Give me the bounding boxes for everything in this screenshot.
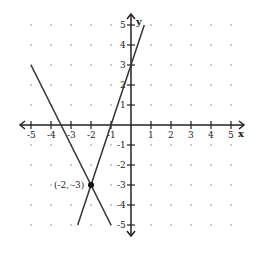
grid-dot: [90, 64, 92, 66]
grid-dot: [50, 44, 52, 46]
grid-dot: [70, 164, 72, 166]
svg-text:4: 4: [120, 40, 126, 50]
grid-dot: [210, 44, 212, 46]
intersection-label: (-2, -3): [54, 180, 84, 190]
grid-dot: [70, 224, 72, 226]
grid-dot: [110, 84, 112, 86]
svg-text:4: 4: [208, 130, 214, 140]
grid-dot: [190, 64, 192, 66]
grid-dot: [70, 84, 72, 86]
grid-dot: [70, 24, 72, 26]
grid-dot: [210, 184, 212, 186]
grid-dot: [90, 84, 92, 86]
grid-dot: [150, 24, 152, 26]
x-tick-labels: -5 -4 -3 -2 -1 1 2 3 4 5 x: [27, 128, 245, 140]
grid-dot: [210, 64, 212, 66]
grid-dot: [210, 84, 212, 86]
grid-dot: [90, 24, 92, 26]
grid-dot: [70, 64, 72, 66]
grid-dot: [210, 224, 212, 226]
grid-dot: [170, 204, 172, 206]
grid-dot: [110, 164, 112, 166]
grid-dot: [170, 84, 172, 86]
grid-dot: [210, 144, 212, 146]
grid-dot: [230, 144, 232, 146]
svg-text:5: 5: [120, 20, 126, 30]
grid-dot: [190, 84, 192, 86]
grid-dot: [90, 144, 92, 146]
grid-dot: [30, 84, 32, 86]
grid-dot: [30, 144, 32, 146]
grid-dot: [110, 64, 112, 66]
svg-text:3: 3: [188, 130, 194, 140]
svg-text:-5: -5: [27, 130, 36, 140]
svg-text:-1: -1: [117, 140, 126, 150]
grid-dot: [30, 104, 32, 106]
svg-text:1: 1: [148, 130, 154, 140]
grid-dot: [50, 224, 52, 226]
grid-dot: [170, 164, 172, 166]
grid-dot: [30, 164, 32, 166]
grid-dot: [170, 64, 172, 66]
grid-dot: [90, 104, 92, 106]
grid-dot: [30, 44, 32, 46]
grid-dot: [230, 184, 232, 186]
grid-dot: [170, 224, 172, 226]
grid-dot: [90, 44, 92, 46]
grid-dot: [110, 184, 112, 186]
grid-dot: [190, 144, 192, 146]
grid-dot: [190, 224, 192, 226]
grid-dot: [210, 104, 212, 106]
grid-dot: [70, 44, 72, 46]
grid-dot: [230, 44, 232, 46]
grid-dot: [150, 144, 152, 146]
grid-dot: [230, 24, 232, 26]
grid-dot: [150, 204, 152, 206]
svg-text:-3: -3: [117, 180, 126, 190]
grid-dot: [190, 24, 192, 26]
grid-dot: [150, 104, 152, 106]
grid-dot: [110, 44, 112, 46]
x-axis-label: x: [238, 128, 245, 139]
grid-dot: [190, 44, 192, 46]
grid-dot: [70, 204, 72, 206]
line-2: [31, 65, 111, 225]
svg-text:-2: -2: [117, 160, 126, 170]
grid-dot: [30, 24, 32, 26]
grid-dot: [190, 184, 192, 186]
intersection-point: [88, 182, 94, 188]
grid-dot: [190, 204, 192, 206]
grid-dot: [170, 144, 172, 146]
grid-dot: [50, 24, 52, 26]
grid-dot: [230, 104, 232, 106]
svg-text:-4: -4: [47, 130, 56, 140]
grid-dot: [90, 164, 92, 166]
grid-dot: [30, 224, 32, 226]
grid-dot: [90, 224, 92, 226]
grid-dot: [150, 44, 152, 46]
grid-dot: [230, 204, 232, 206]
grid-dot: [150, 184, 152, 186]
y-tick-labels: 5 4 3 2 1 -1 -2 -3 -4 -5 y: [117, 16, 143, 230]
grid-dot: [110, 104, 112, 106]
grid-dot: [170, 24, 172, 26]
coordinate-plane: -5 -4 -3 -2 -1 1 2 3 4 5 x 5 4 3 2 1 -1 …: [0, 0, 256, 253]
grid-dot: [110, 24, 112, 26]
svg-text:-4: -4: [117, 200, 126, 210]
svg-text:1: 1: [120, 100, 126, 110]
grid-dot: [50, 64, 52, 66]
grid-dot: [210, 164, 212, 166]
svg-text:2: 2: [168, 130, 174, 140]
svg-text:-2: -2: [87, 130, 96, 140]
grid-dot: [210, 204, 212, 206]
grid-dot: [110, 144, 112, 146]
grid-dot: [30, 184, 32, 186]
grid-dot: [170, 104, 172, 106]
grid-dot: [170, 44, 172, 46]
y-axis-label: y: [135, 16, 143, 27]
grid-dot: [110, 204, 112, 206]
svg-text:3: 3: [120, 60, 126, 70]
grid-dot: [50, 184, 52, 186]
grid-dot: [230, 84, 232, 86]
grid-dot: [50, 164, 52, 166]
